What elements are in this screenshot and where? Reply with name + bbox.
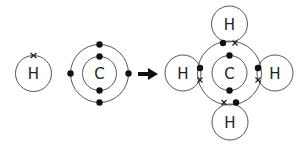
outer-electron-dot [125, 70, 131, 76]
methane-formation-diagram: H C C H [0, 0, 306, 147]
hydrogen-symbol: H [224, 16, 235, 34]
reactant-hydrogen-atom: H [16, 53, 52, 92]
product-methane-molecule: C H H H [165, 6, 293, 140]
inner-electron-dot [96, 87, 102, 93]
shared-electron-dot [220, 40, 226, 46]
shared-electron-dot [233, 99, 239, 105]
reaction-arrow-icon [138, 68, 158, 80]
outer-electron-dot [96, 99, 102, 105]
hydrogen-symbol: H [224, 114, 235, 132]
shared-electron-dot [197, 65, 203, 71]
methane-hydrogen-top: H [212, 6, 248, 46]
hydrogen-symbol: H [28, 65, 39, 83]
carbon-symbol: C [94, 65, 104, 83]
reactant-carbon-atom: C [67, 41, 131, 105]
outer-electron-dot [96, 41, 102, 47]
hydrogen-symbol: H [269, 65, 280, 83]
inner-electron-dot [226, 52, 232, 58]
inner-electron-dot [226, 87, 232, 93]
shared-electron-dot [255, 65, 261, 71]
methane-hydrogen-right: H [255, 55, 293, 91]
hydrogen-symbol: H [177, 65, 188, 83]
outer-electron-dot [67, 70, 73, 76]
methane-carbon-symbol: C [224, 65, 234, 83]
inner-electron-dot [96, 53, 102, 59]
